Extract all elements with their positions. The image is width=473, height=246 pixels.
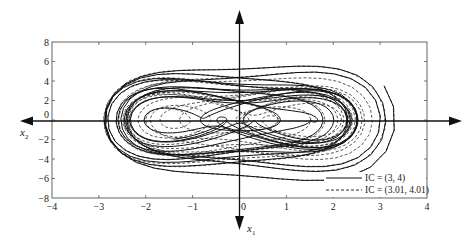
trajectory-solid [105, 66, 395, 180]
x-tick-label: 2 [331, 201, 336, 212]
y-tick-label: −8 [38, 193, 49, 204]
x2-axis-label: x2 [19, 126, 29, 141]
y-tick-label: 2 [44, 95, 49, 106]
y-tick-label: 4 [44, 76, 49, 87]
legend: IC = (3, 4) IC = (3.01, 4.01) [324, 172, 429, 197]
x1-axis-arrow-up-icon [235, 10, 244, 24]
x1-axis-arrow-down-icon [235, 216, 244, 230]
legend-label-dashed: IC = (3.01, 4.01) [365, 185, 429, 196]
x-tick-label: 0 [241, 201, 246, 212]
legend-label-solid: IC = (3, 4) [365, 173, 405, 184]
x2-axis-arrow-left-icon [20, 117, 33, 126]
y-tick-label: 8 [44, 37, 49, 48]
y-tick-label: 6 [44, 56, 49, 67]
y-tick-label: −2 [38, 134, 49, 145]
trajectories [104, 66, 395, 180]
y-tick-label: 0 [44, 109, 49, 120]
x-tick-label: 3 [378, 201, 383, 212]
x-tick-label: −3 [94, 201, 105, 212]
x-tick-label: 1 [284, 201, 289, 212]
phase-portrait-chart: −4−3−2−101234−8−6−4−202468 x1 x2 IC = (3… [0, 0, 473, 246]
y-tick-label: −6 [38, 173, 49, 184]
x-tick-label: 4 [425, 201, 430, 212]
x2-axis-arrow-right-icon [449, 117, 462, 126]
x-tick-label: −2 [140, 201, 151, 212]
y-tick-label: −4 [38, 154, 49, 165]
x-tick-label: −1 [187, 201, 198, 212]
x1-axis-label: x1 [246, 222, 256, 237]
